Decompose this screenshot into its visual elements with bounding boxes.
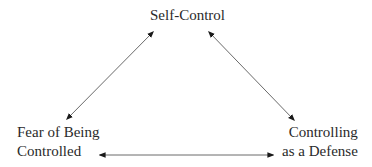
node-fear-of-being-controlled: Fear of Being Controlled bbox=[17, 123, 99, 161]
node-self-control: Self-Control bbox=[150, 6, 225, 25]
arrow-self-control-to-controlling bbox=[209, 32, 294, 120]
node-self-control-label: Self-Control bbox=[150, 6, 225, 25]
node-fear-label-line1: Fear of Being bbox=[17, 123, 99, 142]
node-controlling-label-line2: as a Defense bbox=[282, 142, 358, 161]
node-fear-label-line2: Controlled bbox=[17, 142, 99, 161]
arrow-self-control-to-fear bbox=[67, 32, 153, 119]
node-controlling-as-defense: Controlling as a Defense bbox=[282, 123, 358, 161]
node-controlling-label-line1: Controlling bbox=[282, 123, 358, 142]
